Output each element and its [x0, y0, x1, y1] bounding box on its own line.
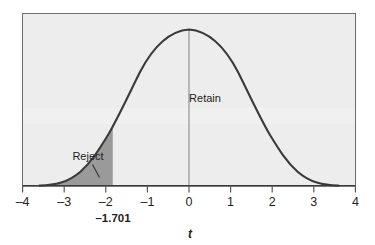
x-tick-label-plus-4: 4: [352, 195, 359, 209]
x-tick-label-minus-3: –3: [57, 195, 71, 209]
x-tick-label-plus-2: 2: [269, 195, 276, 209]
x-tick-label-minus-1: –1: [140, 195, 154, 209]
x-tick-label-zero: 0: [186, 195, 193, 209]
x-tick-label-plus-1: 1: [227, 195, 234, 209]
reject-region-label: Reject: [72, 150, 103, 162]
x-tick-label-minus-4: –4: [16, 195, 30, 209]
x-tick-label-plus-3: 3: [310, 195, 317, 209]
x-tick-label-minus-2: –2: [99, 195, 113, 209]
x-axis-title: t: [188, 227, 193, 241]
t-distribution-chart-figure: –4 –3 –2 –1 0 1 2 3 4 –1.701 t Reject Re…: [0, 0, 375, 245]
retain-region-label: Retain: [189, 92, 221, 104]
critical-value-label: –1.701: [95, 212, 131, 224]
chart-canvas: –4 –3 –2 –1 0 1 2 3 4 –1.701 t Reject Re…: [0, 0, 375, 245]
x-axis-ticks: [23, 186, 356, 193]
